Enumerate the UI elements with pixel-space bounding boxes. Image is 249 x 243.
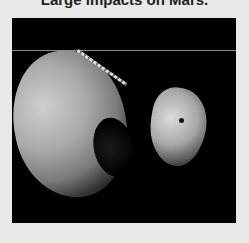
moons-photo <box>12 18 236 223</box>
deimos-moon <box>144 84 213 171</box>
image-scanline <box>12 50 236 51</box>
phobos-moon <box>12 40 140 208</box>
section-heading: Large impacts on Mars. <box>0 0 249 8</box>
deimos-crater <box>179 118 184 123</box>
